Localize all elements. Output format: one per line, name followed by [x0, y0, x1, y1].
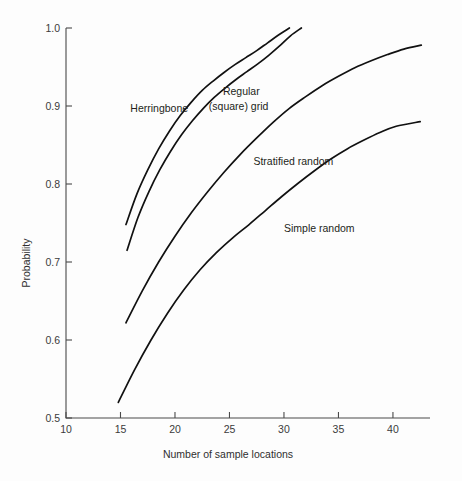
- series-label-simple-random: Simple random: [284, 222, 355, 235]
- y-tick-label: 0.5: [45, 412, 60, 424]
- x-axis-title: Number of sample locations: [163, 448, 293, 460]
- x-tick-label: 40: [387, 423, 399, 435]
- x-tick-label: 15: [115, 423, 127, 435]
- series-label-regular-grid-line1: Regular: [223, 85, 260, 98]
- curve-regular-square-grid: [127, 28, 301, 250]
- y-tick-label: 0.6: [45, 334, 60, 346]
- y-tick-label: 0.8: [45, 178, 60, 190]
- x-tick-label: 35: [333, 423, 345, 435]
- x-tick-label: 30: [278, 423, 290, 435]
- curve-stratified-random: [126, 45, 421, 323]
- y-axis-title: Probability: [20, 238, 32, 288]
- figure-container: 0.50.60.70.80.91.010152025303540Number o…: [0, 0, 462, 481]
- probability-vs-sample-locations-chart: 0.50.60.70.80.91.010152025303540Number o…: [0, 0, 462, 481]
- x-tick-label: 20: [169, 423, 181, 435]
- y-tick-label: 1.0: [45, 22, 60, 34]
- y-tick-label: 0.9: [45, 100, 60, 112]
- y-tick-label: 0.7: [45, 256, 60, 268]
- x-tick-label: 10: [60, 423, 72, 435]
- series-label-stratified-random: Stratified random: [253, 155, 333, 168]
- x-tick-label: 25: [224, 423, 236, 435]
- series-label-regular-grid-line2: (square) grid: [209, 100, 269, 113]
- series-label-herringbone: Herringbone: [130, 102, 188, 115]
